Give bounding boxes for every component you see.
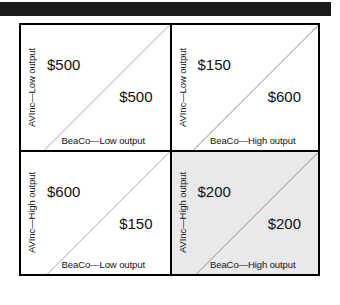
col-label-low-low: BeaCo—Low output: [41, 135, 166, 146]
payoff-cell-high-high[interactable]: AVInc—High output $200 $200 BeaCo—High o…: [170, 150, 319, 275]
diagonal-divider-icon: [21, 152, 170, 275]
payoff-matrix: AVInc—Low output $500 $500 BeaCo—Low out…: [19, 23, 320, 276]
payoff-cell-low-low[interactable]: AVInc—Low output $500 $500 BeaCo—Low out…: [21, 25, 170, 150]
row-payoff-low-high: $150: [198, 56, 231, 73]
row-label-text: AVInc—High output: [27, 172, 38, 253]
row-label-text: AVInc—High output: [177, 172, 188, 253]
col-label-low-high: BeaCo—High output: [192, 135, 315, 146]
row-payoff-low-low: $500: [47, 56, 80, 73]
row-label-low-low: AVInc—Low output: [24, 25, 40, 150]
row-label-high-high: AVInc—High output: [175, 152, 191, 275]
payoff-grid: AVInc—Low output $500 $500 BeaCo—Low out…: [21, 25, 318, 274]
diagonal-divider-icon: [172, 152, 319, 275]
col-payoff-low-high: $600: [268, 88, 301, 105]
row-payoff-high-low: $600: [47, 183, 80, 200]
col-payoff-high-low: $150: [119, 215, 152, 232]
row-payoff-high-high: $200: [198, 183, 231, 200]
row-label-high-low: AVInc—High output: [24, 152, 40, 275]
payoff-cell-high-low[interactable]: AVInc—High output $600 $150 BeaCo—Low ou…: [21, 150, 170, 275]
col-label-high-high: BeaCo—High output: [192, 259, 315, 270]
col-payoff-high-high: $200: [268, 215, 301, 232]
payoff-cell-low-high[interactable]: AVInc—Low output $150 $600 BeaCo—High ou…: [170, 25, 319, 150]
top-rule-bar: [0, 2, 331, 16]
col-payoff-low-low: $500: [119, 88, 152, 105]
row-label-text: AVInc—Low output: [177, 48, 188, 127]
row-label-text: AVInc—Low output: [27, 48, 38, 127]
col-label-high-low: BeaCo—Low output: [41, 259, 166, 270]
row-label-low-high: AVInc—Low output: [175, 25, 191, 150]
